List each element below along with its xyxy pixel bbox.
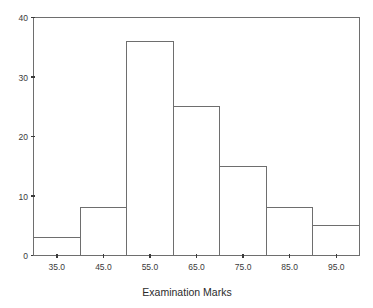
y-tick-label-40: 40 — [19, 13, 29, 23]
x-tick-label-85: 85.0 — [281, 262, 298, 272]
histogram-figure: 40 30 20 10 0 35.0 45.0 55.0 65. — [0, 0, 373, 308]
x-tick-label-95: 95.0 — [328, 262, 345, 272]
x-tick-label-75: 75.0 — [235, 262, 252, 272]
bar-85 — [266, 208, 313, 256]
y-tick-label-10: 10 — [19, 192, 29, 202]
bar-95 — [313, 226, 360, 256]
y-tick-label-0: 0 — [23, 251, 28, 261]
histogram-bars — [34, 41, 360, 255]
x-tick-label-35: 35.0 — [49, 262, 66, 272]
bar-55 — [127, 41, 174, 255]
x-tick-label-45: 45.0 — [95, 262, 112, 272]
bar-75 — [220, 166, 267, 255]
bar-65 — [173, 107, 220, 256]
x-axis-title: Examination Marks — [142, 286, 231, 298]
x-tick-label-55: 55.0 — [142, 262, 159, 272]
y-tick-label-30: 30 — [19, 73, 29, 83]
bar-45 — [80, 208, 127, 256]
histogram-plot-area: 40 30 20 10 0 35.0 45.0 55.0 65. — [0, 0, 373, 308]
y-tick-label-20: 20 — [19, 132, 29, 142]
plot-frame — [34, 18, 360, 256]
bar-35 — [34, 238, 81, 256]
x-tick-label-65: 65.0 — [188, 262, 205, 272]
